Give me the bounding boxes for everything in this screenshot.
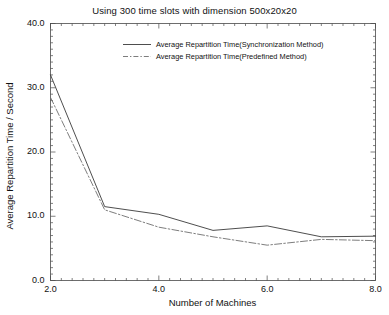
x-tick-label: 4.0 xyxy=(139,284,179,294)
axes-layer xyxy=(51,24,376,281)
plot-frame xyxy=(51,24,376,281)
y-tick-label: 30.0 xyxy=(5,82,45,92)
legend-label-0: Average Repartition Time(Synchronization… xyxy=(156,40,323,49)
series-layer xyxy=(51,75,376,245)
series-line-1 xyxy=(51,97,376,245)
legend-label-1: Average Repartition Time(Predefined Meth… xyxy=(156,52,307,61)
y-tick-label: 20.0 xyxy=(5,146,45,156)
series-line-0 xyxy=(51,75,376,237)
x-tick-label: 8.0 xyxy=(356,284,389,294)
x-tick-label: 6.0 xyxy=(247,284,287,294)
y-tick-label: 40.0 xyxy=(5,18,45,28)
y-tick-label: 10.0 xyxy=(5,210,45,220)
chart-figure: Using 300 time slots with dimension 500x… xyxy=(0,0,389,315)
legend-lines-layer xyxy=(123,45,151,57)
x-axis-label: Number of Machines xyxy=(50,297,375,308)
x-tick-label: 2.0 xyxy=(31,284,71,294)
